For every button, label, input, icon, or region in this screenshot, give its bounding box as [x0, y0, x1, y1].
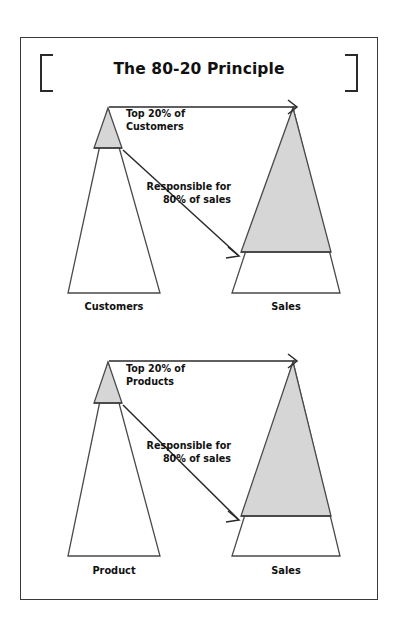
diagonal-arrow-label-line1-1: Responsible for — [147, 181, 232, 192]
target-base-label-2: Sales — [271, 565, 301, 576]
sales-top-80-region-1 — [241, 108, 331, 252]
top-arrow-label-line2-2: Products — [126, 376, 174, 387]
top-arrow-label-line1-1: Top 20% of — [126, 108, 186, 119]
pyramid-sales-2 — [232, 362, 340, 556]
diagram-canvas: The 80-20 Principle — [0, 0, 399, 635]
pyramid-customers — [68, 108, 160, 293]
sales-top-80-region-2 — [241, 362, 331, 516]
pyramid-products — [68, 362, 160, 556]
source-base-label-1: Customers — [85, 301, 144, 312]
source-base-label-2: Product — [92, 565, 136, 576]
target-base-label-1: Sales — [271, 301, 301, 312]
customers-top-20-cap — [94, 108, 122, 148]
right-bracket-decoration — [345, 54, 358, 92]
pyramid-sales-1 — [232, 108, 340, 293]
products-top-20-cap — [94, 362, 122, 403]
diagram-customers-to-sales: Top 20% of Customers Responsible for 80%… — [20, 95, 378, 320]
page-title: The 80-20 Principle — [20, 60, 378, 78]
diagram-products-to-sales: Top 20% of Products Responsible for 80% … — [20, 348, 378, 588]
diagonal-arrow-label-line2-1: 80% of sales — [163, 194, 231, 205]
diagonal-arrow-label-line2-2: 80% of sales — [163, 453, 231, 464]
diagonal-arrow-label-line1-2: Responsible for — [147, 440, 232, 451]
title-band: The 80-20 Principle — [20, 50, 378, 94]
top-arrow-label-line1-2: Top 20% of — [126, 363, 186, 374]
top-arrow-label-line2-1: Customers — [126, 121, 184, 132]
